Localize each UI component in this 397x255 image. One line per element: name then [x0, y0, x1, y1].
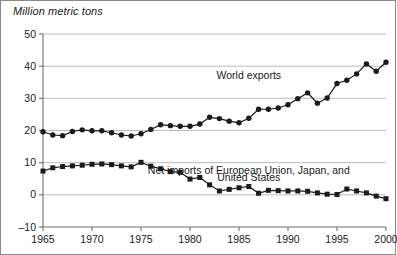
y-tick-label-30: 30 — [24, 92, 36, 104]
data-point — [129, 133, 134, 138]
y-tick-label--10: –10 — [18, 221, 36, 233]
x-tick-label-1975: 1975 — [129, 233, 153, 245]
data-point — [266, 188, 271, 193]
data-point — [325, 95, 330, 100]
data-point — [60, 133, 65, 138]
data-point — [246, 184, 251, 189]
data-point — [99, 128, 104, 133]
y-tick-label-40: 40 — [24, 60, 36, 72]
y-tick-label-10: 10 — [24, 156, 36, 168]
y-axis-tick-labels-group: 50403020100–10 — [18, 28, 36, 233]
series-line-1 — [43, 62, 386, 136]
data-point — [354, 188, 359, 193]
x-tick-label-2000: 2000 — [374, 233, 397, 245]
data-point — [236, 120, 241, 125]
data-point — [374, 69, 379, 74]
data-point — [237, 185, 242, 190]
data-point — [384, 196, 389, 201]
y-tick-label-50: 50 — [24, 28, 36, 40]
x-tick-label-1970: 1970 — [80, 233, 104, 245]
data-point — [41, 169, 46, 174]
data-point — [148, 127, 153, 132]
data-point — [109, 162, 114, 167]
data-point — [60, 164, 65, 169]
data-point — [50, 165, 55, 170]
data-point — [158, 122, 163, 127]
data-point — [364, 190, 369, 195]
data-point — [383, 60, 388, 65]
data-point — [40, 129, 45, 134]
data-point — [217, 116, 222, 121]
data-point — [286, 188, 291, 193]
series-annotation-1: World exports — [217, 69, 282, 81]
data-point — [99, 161, 104, 166]
data-point — [256, 107, 261, 112]
x-tick-marks-group — [43, 227, 386, 231]
data-point — [276, 105, 281, 110]
data-point — [227, 187, 232, 192]
data-point — [50, 132, 55, 137]
x-tick-label-1995: 1995 — [325, 233, 349, 245]
data-point — [256, 191, 261, 196]
chart-plot-area: 50403020100–10 1965197019751980198519901… — [1, 1, 397, 255]
data-point — [305, 90, 310, 95]
data-point — [217, 188, 222, 193]
data-point — [364, 61, 369, 66]
data-point — [295, 96, 300, 101]
data-point — [305, 189, 310, 194]
data-point — [335, 192, 340, 197]
data-point — [178, 124, 183, 129]
x-tick-label-1965: 1965 — [31, 233, 55, 245]
data-point — [90, 162, 95, 167]
data-point — [80, 163, 85, 168]
data-point — [119, 163, 124, 168]
data-point — [344, 78, 349, 83]
data-point — [295, 188, 300, 193]
data-point — [207, 115, 212, 120]
series-1 — [40, 60, 388, 139]
data-point — [188, 177, 193, 182]
data-point — [344, 187, 349, 192]
y-tick-label-0: 0 — [30, 188, 36, 200]
data-point — [80, 127, 85, 132]
data-point — [197, 121, 202, 126]
data-point — [70, 163, 75, 168]
data-point — [315, 190, 320, 195]
data-point — [119, 132, 124, 137]
data-point — [139, 160, 144, 165]
data-point — [315, 100, 320, 105]
x-tick-label-1990: 1990 — [276, 233, 300, 245]
data-point — [70, 129, 75, 134]
data-point — [89, 128, 94, 133]
x-tick-label-1980: 1980 — [178, 233, 202, 245]
data-point — [138, 131, 143, 136]
data-point — [334, 81, 339, 86]
data-point — [207, 182, 212, 187]
data-point — [227, 118, 232, 123]
x-tick-label-1985: 1985 — [227, 233, 251, 245]
data-point — [109, 130, 114, 135]
data-point — [187, 124, 192, 129]
y-tick-label-20: 20 — [24, 124, 36, 136]
x-axis-tick-labels-group: 19651970197519801985199019952000 — [31, 233, 397, 245]
data-point — [246, 116, 251, 121]
data-point — [325, 192, 330, 197]
series-annotation-3: United States — [217, 171, 280, 183]
data-point — [354, 71, 359, 76]
data-point — [168, 123, 173, 128]
data-point — [129, 164, 134, 169]
data-point — [374, 194, 379, 199]
data-point — [285, 102, 290, 107]
data-point — [276, 188, 281, 193]
data-point — [266, 107, 271, 112]
